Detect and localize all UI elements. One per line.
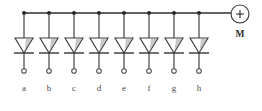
- circuit-diagram: abcdefgh M: [0, 0, 262, 111]
- diode-branch-g: g: [164, 11, 184, 93]
- branch-label-b: b: [47, 83, 52, 93]
- branch-terminal-g[interactable]: [172, 69, 177, 74]
- branch-label-h: h: [197, 83, 202, 93]
- branch-label-d: d: [97, 83, 102, 93]
- branch-label-c: c: [72, 83, 76, 93]
- diode-branch-b: b: [39, 11, 59, 93]
- branch-terminal-f[interactable]: [147, 69, 152, 74]
- branch-label-f: f: [147, 83, 150, 93]
- branch-terminal-d[interactable]: [97, 69, 102, 74]
- branch-terminal-h[interactable]: [197, 69, 202, 74]
- diode-branch-e: e: [114, 11, 134, 93]
- branch-label-a: a: [22, 83, 26, 93]
- source-group: M: [231, 5, 249, 39]
- source-label: M: [236, 29, 245, 39]
- diode-branch-c: c: [64, 11, 84, 93]
- branch-terminal-a[interactable]: [22, 69, 27, 74]
- diode-branch-f: f: [139, 11, 159, 93]
- branch-label-e: e: [122, 83, 126, 93]
- branch-terminal-b[interactable]: [47, 69, 52, 74]
- diode-branch-d: d: [89, 11, 109, 93]
- branches-layer: abcdefgh: [14, 11, 209, 93]
- branch-label-g: g: [172, 83, 177, 93]
- diode-branch-h: h: [189, 11, 209, 93]
- diode-branch-a: a: [14, 11, 34, 93]
- branch-terminal-c[interactable]: [72, 69, 77, 74]
- schematic-canvas: abcdefgh M: [0, 0, 262, 111]
- branch-terminal-e[interactable]: [122, 69, 127, 74]
